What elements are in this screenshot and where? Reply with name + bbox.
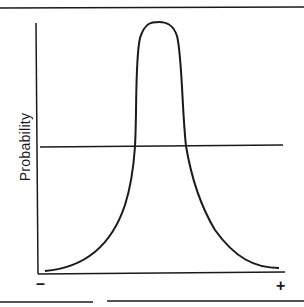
x-axis [38,272,285,274]
top-rule [0,7,304,8]
x-axis-min-label: – [36,276,45,292]
y-axis [36,23,38,274]
y-axis-label: Probability [17,113,33,182]
chart-canvas [0,0,304,307]
reference-line [40,145,283,147]
x-axis-max-label: + [276,278,285,294]
